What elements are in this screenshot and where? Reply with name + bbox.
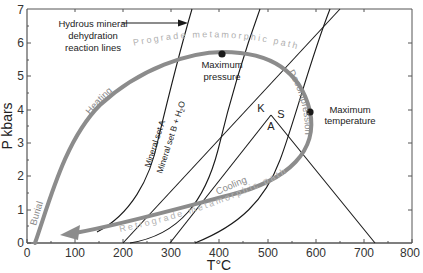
prograde-path-label: Prograde metamorphic path — [132, 29, 301, 51]
x-tick-500: 500 — [258, 246, 278, 260]
max-pressure-label-2: pressure — [204, 71, 241, 82]
y-tick-2: 2 — [17, 169, 24, 183]
arrow-right-icon — [178, 20, 188, 27]
max-pressure-dot — [218, 50, 225, 57]
max-temperature-label-2: temperature — [324, 115, 375, 126]
x-tick-300: 300 — [161, 246, 181, 260]
y-tick-5: 5 — [17, 69, 24, 83]
max-temperature-label-1: Maximum — [329, 104, 370, 115]
kya-sil-boundary — [271, 115, 375, 243]
y-tick-1: 1 — [17, 203, 24, 217]
x-tick-600: 600 — [306, 246, 326, 260]
retrograde-arrow-head — [60, 225, 80, 240]
y-axis-title: P kbars — [0, 102, 15, 149]
heating-label: Heating — [83, 85, 114, 117]
sillimanite-field-label: S — [277, 108, 284, 120]
andalusite-field-label: A — [267, 120, 275, 132]
y-tick-0: 0 — [17, 236, 24, 250]
x-tick-200: 200 — [113, 246, 133, 260]
annotation-text-1: Hydrous mineral — [58, 18, 127, 29]
y-tick-7: 7 — [17, 3, 24, 17]
decompression-label: Decompression — [286, 67, 314, 135]
kyanite-field-label: K — [257, 102, 265, 114]
y-tick-6: 6 — [17, 36, 24, 50]
max-pressure-label-1: Maximum — [201, 59, 242, 70]
x-tick-800: 800 — [400, 246, 420, 260]
x-tick-0: 0 — [24, 246, 31, 260]
annotation-text-2: dehydration — [68, 30, 118, 41]
x-tick-100: 100 — [65, 246, 85, 260]
y-tick-4: 4 — [17, 103, 24, 117]
y-tick-3: 3 — [17, 136, 24, 150]
x-tick-700: 700 — [354, 246, 374, 260]
annotation-text-3: reaction lines — [65, 42, 121, 53]
kya-and-boundary — [170, 115, 271, 243]
pt-diagram: 0 100 200 300 400 500 600 700 800 0 1 2 … — [0, 0, 423, 273]
x-axis-title: T°C — [207, 257, 231, 273]
y-axis-tick-labels: 0 1 2 3 4 5 6 7 — [17, 3, 24, 250]
